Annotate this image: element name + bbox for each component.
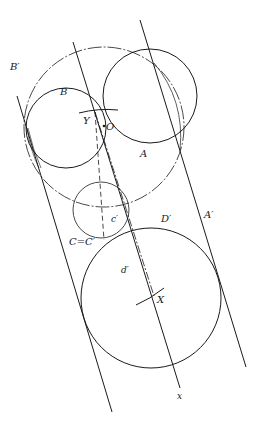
label-c-eq-c-prime: C=C′ <box>69 236 96 247</box>
circle-c <box>73 182 129 238</box>
label-d-prime-small: d′ <box>121 265 129 275</box>
label-x-lower: x <box>177 391 182 401</box>
line-b-prime <box>17 96 112 412</box>
geometry-figure: B′ B Y O A A′ D′ c′ C=C′ d′ X x <box>0 0 253 428</box>
arc-b-left-2 <box>28 128 41 168</box>
line-a-prime <box>140 20 246 367</box>
label-y: Y <box>83 115 91 126</box>
circle-b <box>26 88 106 168</box>
arc-a-right <box>154 63 181 150</box>
label-o: O <box>106 121 114 132</box>
label-d-prime: D′ <box>160 213 172 224</box>
label-a-prime: A′ <box>203 209 214 220</box>
point-o <box>103 125 106 128</box>
dashed-line-vertical <box>95 112 104 240</box>
label-b: B <box>59 86 67 97</box>
construction-diagram: B′ B Y O A A′ D′ c′ C=C′ d′ X x <box>0 0 253 428</box>
y-tick-arc <box>79 109 118 113</box>
circle-a <box>103 49 197 143</box>
label-a: A <box>139 148 147 159</box>
label-b-prime: B′ <box>9 61 20 72</box>
label-c-prime: c′ <box>111 214 118 224</box>
circle-d-prime <box>81 228 221 368</box>
label-x-upper: X <box>156 294 165 305</box>
